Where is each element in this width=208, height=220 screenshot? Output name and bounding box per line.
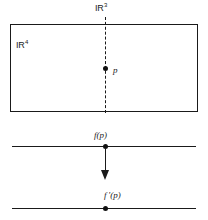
point-f-prime-p-dot — [103, 206, 108, 211]
math-figure-canvas: IR3 IR4 p f(p) f ′(p) — [0, 0, 208, 220]
point-p-dot — [103, 66, 108, 71]
mapping-arrow-head-icon — [101, 170, 109, 180]
label-r4-ambient: IR4 — [16, 41, 28, 50]
label-r4-exponent: 4 — [25, 39, 28, 45]
label-r4-base: IR — [16, 41, 24, 50]
label-f-of-p: f(p) — [94, 131, 107, 140]
r3-slice-dashed-line — [105, 17, 106, 113]
label-r3-base: IR — [95, 4, 103, 13]
label-r3-slice: IR3 — [95, 4, 107, 13]
label-point-p: p — [113, 66, 118, 75]
label-f-prime-of-p: f ′(p) — [104, 191, 121, 200]
label-r3-exponent: 3 — [104, 2, 107, 8]
